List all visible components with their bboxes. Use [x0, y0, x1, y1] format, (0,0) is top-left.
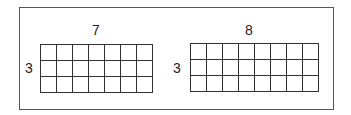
- grid-cell: [207, 76, 223, 92]
- grid-cell: [303, 76, 319, 92]
- grid-cell: [191, 44, 207, 60]
- grid-left-columns-label: 7: [92, 23, 100, 37]
- grid-cell: [191, 60, 207, 76]
- grid-cell: [73, 77, 89, 93]
- grid-cell: [57, 77, 73, 93]
- grid-left: [40, 44, 153, 93]
- grid-cell: [41, 61, 57, 77]
- grid-cell: [239, 44, 255, 60]
- grid-cell: [207, 44, 223, 60]
- grid-cell: [89, 77, 105, 93]
- grid-cell: [223, 44, 239, 60]
- grid-cell: [255, 76, 271, 92]
- grid-cell: [121, 77, 137, 93]
- grid-cell: [41, 77, 57, 93]
- grid-cell: [57, 45, 73, 61]
- grid-cell: [271, 60, 287, 76]
- grid-cell: [191, 76, 207, 92]
- grid-cell: [73, 45, 89, 61]
- grid-cell: [303, 44, 319, 60]
- grid-cell: [303, 60, 319, 76]
- grid-cell: [223, 60, 239, 76]
- grid-cell: [137, 77, 153, 93]
- grid-cell: [57, 61, 73, 77]
- grid-cell: [73, 61, 89, 77]
- grid-cell: [41, 45, 57, 61]
- grid-right-columns-label: 8: [245, 23, 253, 37]
- grid-cell: [239, 76, 255, 92]
- grid-cell: [137, 45, 153, 61]
- grid-cell: [89, 45, 105, 61]
- grid-left-rows-label: 3: [25, 61, 33, 75]
- grid-cell: [121, 45, 137, 61]
- grid-cell: [105, 45, 121, 61]
- grid-cell: [271, 76, 287, 92]
- grid-cell: [287, 44, 303, 60]
- grid-cell: [89, 61, 105, 77]
- grid-cell: [287, 60, 303, 76]
- grid-cell: [255, 60, 271, 76]
- grid-cell: [137, 61, 153, 77]
- grid-right: [190, 43, 319, 92]
- grid-cell: [287, 76, 303, 92]
- grid-cell: [255, 44, 271, 60]
- grid-cell: [121, 61, 137, 77]
- grid-cell: [271, 44, 287, 60]
- grid-cell: [223, 76, 239, 92]
- grid-right-rows-label: 3: [173, 61, 181, 75]
- grid-cell: [105, 61, 121, 77]
- grid-cell: [105, 77, 121, 93]
- grid-cell: [207, 60, 223, 76]
- grid-cell: [239, 60, 255, 76]
